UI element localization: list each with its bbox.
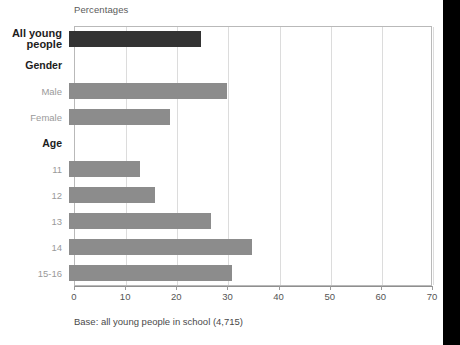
bar-female bbox=[69, 109, 170, 125]
bar-track bbox=[68, 104, 426, 130]
bar-track bbox=[68, 260, 426, 286]
tick-label-60: 60 bbox=[376, 291, 387, 302]
bar-14 bbox=[69, 239, 252, 255]
tick-label-30: 30 bbox=[222, 291, 233, 302]
chart-page: Percentages All young peopleGenderMaleFe… bbox=[0, 0, 460, 345]
tick-60 bbox=[381, 286, 382, 290]
row-label-11: 11 bbox=[0, 164, 68, 175]
bar-track bbox=[68, 234, 426, 260]
tick-70 bbox=[432, 286, 433, 290]
tick-0 bbox=[74, 286, 75, 290]
bar-track bbox=[68, 208, 426, 234]
bar-row: Male bbox=[0, 78, 460, 104]
tick-label-50: 50 bbox=[324, 291, 335, 302]
bar-track bbox=[68, 182, 426, 208]
group-header-row: Gender bbox=[0, 52, 460, 78]
row-label-age: Age bbox=[0, 138, 68, 149]
bar-row: 11 bbox=[0, 156, 460, 182]
row-label-male: Male bbox=[0, 86, 68, 97]
tick-label-10: 10 bbox=[120, 291, 131, 302]
bar-11 bbox=[69, 161, 140, 177]
row-label-female: Female bbox=[0, 112, 68, 123]
bar-row: Female bbox=[0, 104, 460, 130]
tick-label-0: 0 bbox=[71, 291, 76, 302]
bar-15-16 bbox=[69, 265, 232, 281]
row-label-all-young-people: All young people bbox=[0, 28, 68, 51]
bar-rows: All young peopleGenderMaleFemaleAge11121… bbox=[0, 26, 460, 286]
row-label-13: 13 bbox=[0, 216, 68, 227]
bar-row: 15-16 bbox=[0, 260, 460, 286]
tick-label-70: 70 bbox=[427, 291, 438, 302]
bar-row: 12 bbox=[0, 182, 460, 208]
tick-30 bbox=[227, 286, 228, 290]
bar-row: 14 bbox=[0, 234, 460, 260]
tick-40 bbox=[279, 286, 280, 290]
row-label-12: 12 bbox=[0, 190, 68, 201]
bar-13 bbox=[69, 213, 211, 229]
tick-10 bbox=[125, 286, 126, 290]
tick-20 bbox=[176, 286, 177, 290]
row-label-14: 14 bbox=[0, 242, 68, 253]
bar-row: All young people bbox=[0, 26, 460, 52]
chart-title: Percentages bbox=[74, 4, 128, 15]
right-edge-band bbox=[443, 0, 460, 345]
group-header-row: Age bbox=[0, 130, 460, 156]
bar-row: 13 bbox=[0, 208, 460, 234]
bar-all-young-people bbox=[69, 31, 201, 47]
bar-track bbox=[68, 26, 426, 52]
tick-label-40: 40 bbox=[273, 291, 284, 302]
tick-label-20: 20 bbox=[171, 291, 182, 302]
chart-caption: Base: all young people in school (4,715) bbox=[74, 316, 243, 327]
bar-12 bbox=[69, 187, 155, 203]
bar-male bbox=[69, 83, 227, 99]
tick-50 bbox=[330, 286, 331, 290]
bar-track bbox=[68, 78, 426, 104]
bar-track bbox=[68, 52, 426, 78]
bar-track bbox=[68, 156, 426, 182]
x-axis-line bbox=[74, 286, 432, 287]
row-label-gender: Gender bbox=[0, 60, 68, 71]
bar-track bbox=[68, 130, 426, 156]
row-label-15-16: 15-16 bbox=[0, 268, 68, 279]
